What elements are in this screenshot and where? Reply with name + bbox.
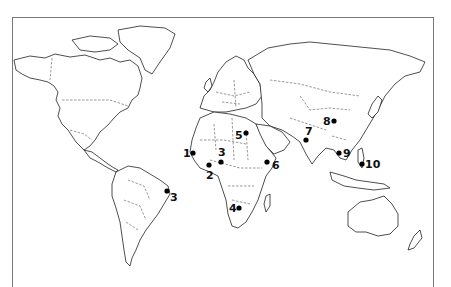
point-1-label: 1 [183,148,191,159]
point-3-africa-label: 3 [218,147,226,158]
point-9-dot[interactable] [336,150,341,155]
point-2-dot[interactable] [206,162,211,167]
point-3-africa-dot[interactable] [218,159,223,164]
new-zealand [408,230,422,250]
australia [348,196,398,236]
arctic-islands [72,36,118,52]
point-7-label: 7 [305,126,313,137]
point-6-label: 6 [272,160,280,171]
point-4-dot[interactable] [236,205,241,210]
madagascar [264,194,270,212]
point-1-dot[interactable] [190,150,195,155]
point-5-label: 5 [235,130,243,141]
north-america [14,54,142,150]
indonesia [330,172,390,190]
central-america [84,150,118,172]
point-9-label: 9 [343,148,351,159]
point-10-label: 10 [365,159,380,170]
point-3-brazil-dot[interactable] [164,188,169,193]
point-8-dot[interactable] [331,118,336,123]
south-america [112,166,170,266]
point-10-dot[interactable] [359,161,364,166]
point-3-brazil-label: 3 [170,192,178,203]
point-7-dot[interactable] [303,137,308,142]
point-8-label: 8 [323,116,331,127]
point-4-label: 4 [229,203,237,214]
point-6-dot[interactable] [264,159,269,164]
point-5-dot[interactable] [243,130,248,135]
point-2-label: 2 [206,170,214,181]
